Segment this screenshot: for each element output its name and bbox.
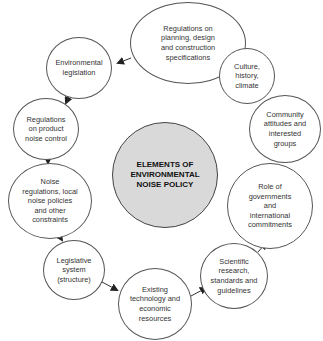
node-label: Legislative system (structure): [57, 256, 92, 285]
node-legislative-system: Legislative system (structure): [43, 240, 105, 300]
arrow-planning-to-envleg: [118, 58, 131, 63]
node-scientific: Scientific research, standards and guide…: [200, 243, 268, 309]
node-product-regulations: Regulations on product noise control: [13, 98, 79, 160]
node-label: Regulations on product noise control: [25, 115, 67, 144]
node-technology: Existing technology and economic resourc…: [118, 268, 192, 340]
node-community: Community attitudes and interested group…: [249, 95, 321, 163]
node-environmental-legislation: Environmental legislation: [46, 37, 112, 99]
node-label: Role of governments and international co…: [248, 182, 292, 230]
node-governments: Role of governments and international co…: [227, 163, 313, 249]
node-culture: Culture, history, climate: [219, 48, 275, 104]
node-noise-regulations: Noise regulations, local noise policies …: [8, 163, 92, 239]
node-label: Culture, history, climate: [234, 62, 260, 91]
node-label: Noise regulations, local noise policies …: [22, 177, 77, 225]
arrow-legislative-to-technology: [102, 282, 117, 290]
node-label: Existing technology and economic resourc…: [130, 285, 180, 323]
node-label: Scientific research, standards and guide…: [211, 257, 258, 295]
center-title-text: ELEMENTS OF ENVIRONMENTAL NOISE POLICY: [130, 160, 199, 190]
node-label: Regulations on planning, design and cons…: [161, 24, 215, 62]
node-label: Community attitudes and interested group…: [264, 110, 306, 148]
center-title: ELEMENTS OF ENVIRONMENTAL NOISE POLICY: [112, 122, 218, 228]
node-label: Environmental legislation: [55, 58, 102, 77]
